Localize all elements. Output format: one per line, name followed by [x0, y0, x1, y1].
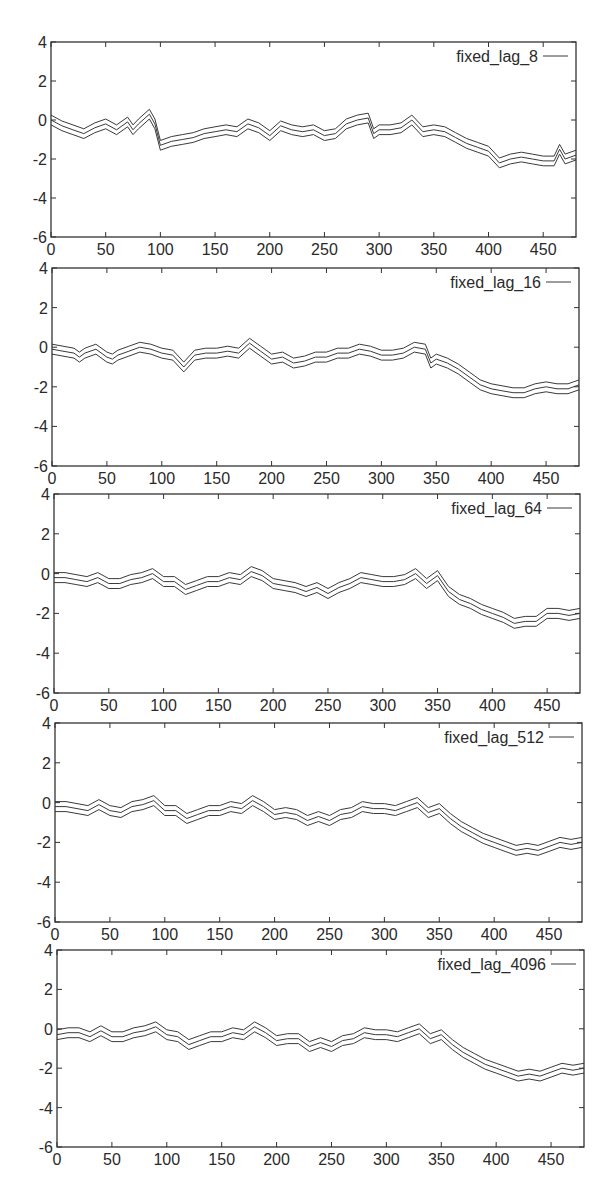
y-tick-label: -6 [37, 914, 51, 931]
x-tick-label: 350 [426, 926, 453, 943]
y-tick-label: -6 [34, 458, 48, 475]
series-upper-line [51, 109, 576, 158]
x-tick-label: 100 [150, 697, 177, 714]
chart-panel-1: 050100150200250300350400450420-2-4-6fixe… [33, 34, 576, 258]
plot-frame [55, 723, 582, 922]
x-tick-label: 350 [420, 241, 447, 258]
x-tick-label: 50 [101, 926, 119, 943]
y-tick-label: 0 [39, 339, 48, 356]
x-tick-label: 300 [373, 1151, 400, 1168]
x-tick-label: 100 [147, 241, 174, 258]
y-tick-label: -4 [33, 190, 47, 207]
y-tick-label: -4 [39, 1100, 53, 1117]
x-tick-label: 400 [475, 241, 502, 258]
legend-label: fixed_lag_8 [456, 48, 538, 66]
x-tick-label: 250 [316, 926, 343, 943]
y-tick-label: -6 [33, 229, 47, 246]
legend: fixed_lag_512 [444, 729, 574, 747]
y-tick-label: 0 [41, 566, 50, 583]
y-tick-label: -2 [39, 1060, 53, 1077]
x-tick-label: 200 [256, 241, 283, 258]
x-tick-label: 0 [48, 470, 57, 487]
plot-frame [54, 494, 580, 693]
x-tick-label: 450 [538, 1151, 565, 1168]
x-tick-label: 300 [368, 470, 395, 487]
legend-label: fixed_lag_512 [444, 729, 544, 747]
chart-panel-3: 050100150200250300350400450420-2-4-6fixe… [36, 486, 580, 714]
x-tick-label: 300 [371, 926, 398, 943]
x-tick-label: 400 [483, 1151, 510, 1168]
panels-container: 050100150200250300350400450420-2-4-6fixe… [33, 34, 584, 1168]
y-tick-label: -2 [36, 605, 50, 622]
x-tick-label: 50 [97, 241, 115, 258]
legend: fixed_lag_4096 [437, 956, 576, 974]
x-tick-label: 450 [530, 241, 557, 258]
x-tick-label: 50 [100, 697, 118, 714]
x-tick-label: 0 [47, 241, 56, 258]
legend-label: fixed_lag_4096 [437, 956, 546, 974]
x-tick-label: 450 [533, 470, 560, 487]
series-lower-line [54, 577, 580, 629]
y-tick-label: -6 [39, 1139, 53, 1156]
y-tick-label: -4 [37, 874, 51, 891]
y-tick-label: 4 [39, 260, 48, 277]
x-tick-label: 250 [318, 1151, 345, 1168]
x-tick-label: 300 [369, 697, 396, 714]
series-mean-line [55, 801, 582, 851]
x-tick-label: 50 [98, 470, 116, 487]
x-tick-label: 100 [148, 470, 175, 487]
plot-frame [51, 42, 576, 237]
x-tick-label: 200 [260, 697, 287, 714]
y-tick-label: 2 [42, 755, 51, 772]
chart-panel-5: 050100150200250300350400450420-2-4-6fixe… [39, 942, 584, 1168]
x-tick-label: 0 [51, 926, 60, 943]
legend: fixed_lag_16 [450, 274, 571, 292]
series-lower-line [55, 806, 582, 856]
y-tick-label: -4 [36, 645, 50, 662]
x-tick-label: 200 [263, 1151, 290, 1168]
series-mean-line [54, 572, 580, 624]
x-tick-label: 250 [315, 697, 342, 714]
series-upper-line [52, 338, 579, 388]
x-tick-label: 200 [258, 470, 285, 487]
x-tick-label: 200 [261, 926, 288, 943]
x-tick-label: 150 [203, 470, 230, 487]
legend-label: fixed_lag_16 [450, 274, 541, 292]
legend: fixed_lag_64 [451, 500, 572, 518]
x-tick-label: 100 [153, 1151, 180, 1168]
plot-frame [52, 268, 579, 466]
chart-panel-2: 050100150200250300350400450420-2-4-6fixe… [34, 260, 579, 487]
x-tick-label: 450 [534, 697, 561, 714]
y-tick-label: 4 [44, 942, 53, 959]
x-tick-label: 300 [366, 241, 393, 258]
y-tick-label: -2 [37, 834, 51, 851]
legend: fixed_lag_8 [456, 48, 568, 66]
x-tick-label: 250 [313, 470, 340, 487]
x-tick-label: 400 [479, 697, 506, 714]
series-upper-line [55, 796, 582, 846]
y-tick-label: 4 [41, 486, 50, 503]
y-tick-label: -2 [34, 379, 48, 396]
x-tick-label: 150 [202, 241, 229, 258]
x-tick-label: 350 [424, 697, 451, 714]
x-tick-label: 250 [311, 241, 338, 258]
x-tick-label: 0 [53, 1151, 62, 1168]
y-tick-label: 2 [39, 300, 48, 317]
x-tick-label: 350 [423, 470, 450, 487]
figure: 050100150200250300350400450420-2-4-6fixe… [0, 0, 613, 1201]
x-tick-label: 100 [151, 926, 178, 943]
y-tick-label: 0 [38, 112, 47, 129]
y-tick-label: -4 [34, 418, 48, 435]
x-tick-label: 400 [478, 470, 505, 487]
y-tick-label: 0 [44, 1021, 53, 1038]
legend-label: fixed_lag_64 [451, 500, 542, 518]
x-tick-label: 400 [481, 926, 508, 943]
x-tick-label: 150 [206, 926, 233, 943]
x-tick-label: 150 [208, 1151, 235, 1168]
series-upper-line [57, 1022, 584, 1071]
y-tick-label: -6 [36, 685, 50, 702]
series-lower-line [57, 1032, 584, 1081]
chart-panel-4: 050100150200250300350400450420-2-4-6fixe… [37, 715, 582, 943]
x-tick-label: 0 [50, 697, 59, 714]
y-tick-label: 4 [38, 34, 47, 51]
